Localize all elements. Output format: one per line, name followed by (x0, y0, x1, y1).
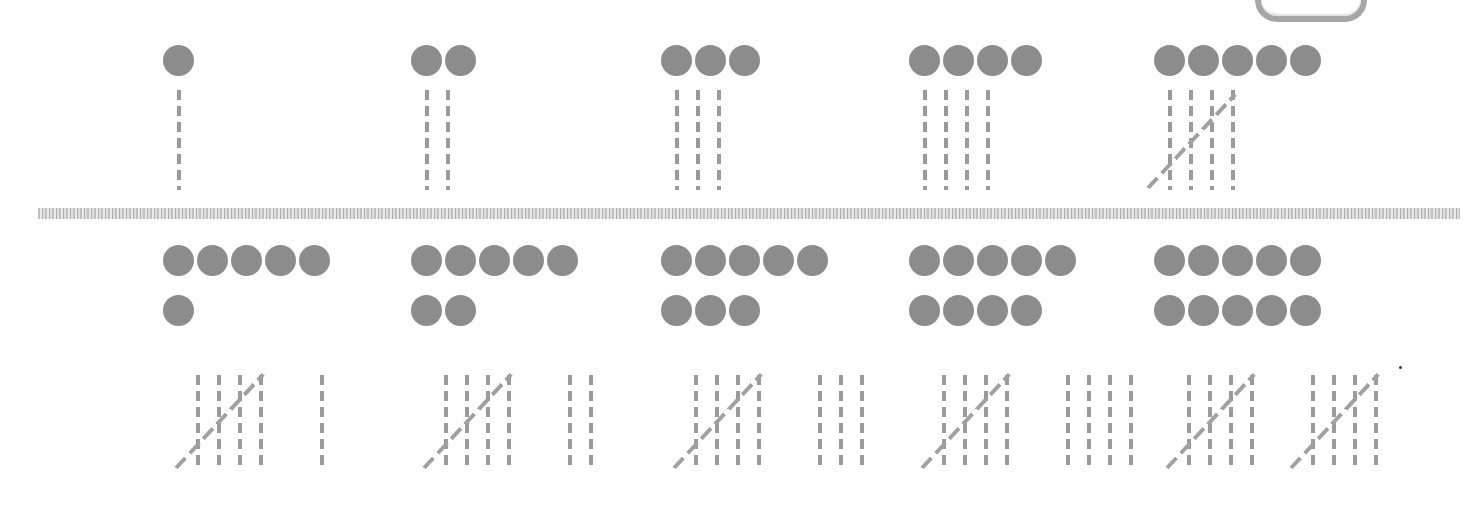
number-group-6 (163, 245, 330, 345)
dot (943, 245, 974, 276)
tally-mark (860, 375, 864, 470)
tally-mark (320, 375, 324, 470)
tally-mark (1108, 375, 1112, 470)
tally-mark (986, 90, 990, 190)
tally-mark (694, 375, 698, 470)
dot (729, 295, 760, 326)
dot (1290, 295, 1321, 326)
dot-row (661, 245, 828, 279)
dot (1188, 245, 1219, 276)
dot (695, 45, 726, 76)
dot (661, 245, 692, 276)
dot (1222, 45, 1253, 76)
dot-row (1154, 295, 1321, 329)
tally-mark (1005, 375, 1009, 470)
dot (1256, 295, 1287, 326)
tally-mark (1066, 375, 1070, 470)
dot (661, 295, 692, 326)
dot (695, 245, 726, 276)
dot (547, 245, 578, 276)
tally-mark (1250, 375, 1254, 470)
tally-mark (1353, 375, 1357, 470)
dot (411, 45, 442, 76)
dot (1188, 295, 1219, 326)
dot (763, 245, 794, 276)
dot (729, 245, 760, 276)
tally-mark (177, 90, 181, 190)
dot (231, 245, 262, 276)
stray-mark (1399, 366, 1402, 369)
tally-mark (923, 90, 927, 190)
tally-mark (696, 90, 700, 190)
dot-row (661, 295, 828, 329)
tally-mark (196, 375, 200, 470)
dot (1256, 245, 1287, 276)
dot (445, 295, 476, 326)
dot (977, 295, 1008, 326)
tally-mark (425, 90, 429, 190)
dot (445, 245, 476, 276)
tally-mark (839, 375, 843, 470)
tally-mark (486, 375, 490, 470)
number-group-9 (909, 245, 1076, 345)
dot (163, 45, 194, 76)
tally-mark (1168, 90, 1172, 190)
dot-row (661, 45, 760, 79)
dot (411, 295, 442, 326)
dot (411, 245, 442, 276)
tally-mark (446, 90, 450, 190)
tally-mark (818, 375, 822, 470)
dot (1222, 245, 1253, 276)
tally-mark (965, 90, 969, 190)
number-group-1 (163, 45, 194, 95)
dot (163, 295, 194, 326)
dot (909, 295, 940, 326)
dot (513, 245, 544, 276)
tally-mark (444, 375, 448, 470)
dot (909, 45, 940, 76)
tally-mark (1129, 375, 1133, 470)
tally-mark (238, 375, 242, 470)
dot (977, 245, 1008, 276)
tally-mark (675, 90, 679, 190)
dot (1011, 45, 1042, 76)
dot (1011, 295, 1042, 326)
dot (197, 245, 228, 276)
number-group-5 (1154, 45, 1321, 95)
dot-row (163, 295, 330, 329)
tally-mark (1229, 375, 1233, 470)
row-divider (38, 208, 1460, 219)
decorative-frame-corner (1255, 0, 1367, 22)
number-group-8 (661, 245, 828, 345)
tally-mark (259, 375, 263, 470)
dot (661, 45, 692, 76)
tally-mark (942, 375, 946, 470)
dot (977, 45, 1008, 76)
tally-mark (507, 375, 511, 470)
tally-mark (1210, 90, 1214, 190)
dot (299, 245, 330, 276)
tally-mark (1311, 375, 1315, 470)
number-group-4 (909, 45, 1042, 95)
tally-mark (568, 375, 572, 470)
dot (265, 245, 296, 276)
dot (1011, 245, 1042, 276)
dot (1045, 245, 1076, 276)
dot (1154, 245, 1185, 276)
dot (729, 45, 760, 76)
dot (943, 295, 974, 326)
dot-row (909, 295, 1076, 329)
tally-mark (589, 375, 593, 470)
dot-row (1154, 45, 1321, 79)
tally-mark (1374, 375, 1378, 470)
tally-mark (984, 375, 988, 470)
tally-mark (1231, 90, 1235, 190)
dot (909, 245, 940, 276)
dot-row (163, 245, 330, 279)
tally-mark (1187, 375, 1191, 470)
dot (1290, 45, 1321, 76)
dot (797, 245, 828, 276)
dot (1188, 45, 1219, 76)
dot (1154, 45, 1185, 76)
dot-row (411, 295, 578, 329)
